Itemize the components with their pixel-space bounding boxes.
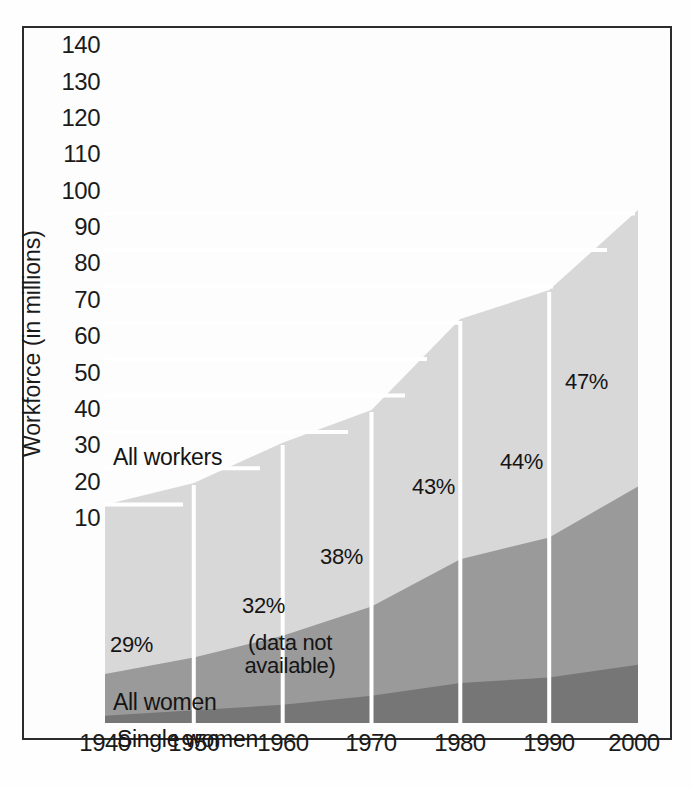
x-tick-1980: 1980	[415, 731, 505, 755]
area-chart-svg	[105, 45, 638, 723]
plot-area: All workers 29% All women Single women 3…	[105, 45, 638, 723]
x-tick-2000: 2000	[589, 731, 679, 755]
label-pct-1990: 44%	[500, 450, 543, 473]
x-tick-1950: 1950	[149, 731, 239, 755]
y-axis-tick-labels: 140 130 120 110 100 90 80 70 60 50 40 30…	[28, 0, 100, 789]
y-tick-50: 50	[30, 361, 100, 385]
x-tick-1940: 1940	[60, 731, 150, 755]
y-tick-110: 110	[30, 142, 100, 166]
y-tick-90: 90	[30, 215, 100, 239]
label-pct-1980: 43%	[412, 475, 455, 498]
label-all-women: All women	[113, 690, 216, 714]
x-axis-tick-labels: 1940 1950 1960 1970 1980 1990 2000	[0, 731, 693, 767]
label-pct-1960: 32%	[242, 594, 285, 617]
y-tick-140: 140	[30, 33, 100, 57]
y-tick-60: 60	[30, 324, 100, 348]
y-tick-100: 100	[30, 179, 100, 203]
y-tick-30: 30	[30, 433, 100, 457]
x-tick-1990: 1990	[504, 731, 594, 755]
y-tick-130: 130	[30, 70, 100, 94]
label-all-workers: All workers	[113, 445, 222, 469]
y-tick-20: 20	[30, 470, 100, 494]
data-not-available-line-2: available)	[205, 654, 375, 677]
y-tick-10: 10	[30, 506, 100, 530]
y-tick-80: 80	[30, 251, 100, 275]
label-pct-1940: 29%	[110, 633, 153, 656]
label-data-not-available: (data not available)	[205, 631, 375, 677]
y-tick-120: 120	[30, 106, 100, 130]
y-tick-40: 40	[30, 397, 100, 421]
x-tick-1970: 1970	[326, 731, 416, 755]
x-tick-1960: 1960	[238, 731, 328, 755]
chart-page: Workforce (in millions) 140 130 120 110 …	[0, 0, 693, 789]
label-pct-1970: 38%	[320, 545, 363, 568]
y-tick-70: 70	[30, 288, 100, 312]
data-not-available-line-1: (data not	[205, 631, 375, 654]
label-pct-2000: 47%	[565, 370, 608, 393]
